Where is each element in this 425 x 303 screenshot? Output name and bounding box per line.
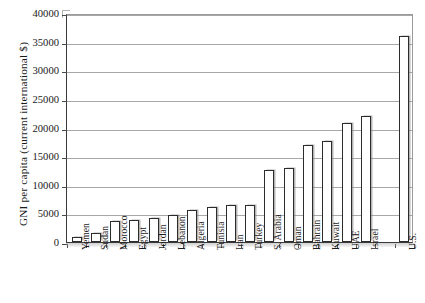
- y-axis-tick-label: 25000: [33, 94, 59, 105]
- x-axis-tick-label: Egypt: [137, 227, 148, 250]
- x-axis-tick-label: Tunisia: [215, 222, 226, 250]
- x-axis-tick-label: Algeria: [195, 221, 206, 250]
- x-axis-tick-label: Yemen: [80, 223, 91, 250]
- y-axis-tick-label: 40000: [33, 8, 59, 19]
- y-axis-title: GNI per capita (current international $): [17, 19, 29, 249]
- y-axis-tick-label: 0: [54, 237, 59, 248]
- x-axis-tick-label: Israel: [369, 229, 380, 250]
- y-axis-tick-label: 15000: [33, 151, 59, 162]
- x-axis-tick-label: Bahrain: [311, 220, 322, 250]
- bar: [342, 123, 352, 242]
- x-axis-tick-label: Jordan: [157, 224, 168, 250]
- x-axis-tick-label: U.S.: [407, 233, 418, 250]
- x-axis-tick-label: Oman: [292, 227, 303, 250]
- bar-chart: GNI per capita (current international $)…: [0, 0, 425, 303]
- x-axis-tick-label: Sudan: [99, 226, 110, 250]
- gridline: [67, 44, 412, 45]
- y-axis-tick: [62, 215, 67, 216]
- x-axis-tick-label: Kuwait: [330, 222, 341, 250]
- x-axis-tick-label: Turkey: [253, 223, 264, 250]
- x-axis-tick-label: S. Arabia: [272, 214, 283, 250]
- y-axis-tick: [62, 15, 67, 16]
- plot-area: [66, 14, 413, 243]
- y-axis-tick: [62, 187, 67, 188]
- y-axis-tick: [62, 130, 67, 131]
- gridline: [67, 15, 412, 16]
- bar: [399, 36, 409, 242]
- x-axis-tick-label: Lebanon: [176, 216, 187, 250]
- y-axis-tick-label: 35000: [33, 37, 59, 48]
- y-axis-tick: [62, 158, 67, 159]
- y-axis-tick: [62, 72, 67, 73]
- y-axis-tick-label: 5000: [38, 208, 59, 219]
- x-axis-tick-label: UAE: [350, 230, 361, 250]
- y-axis-tick-label: 10000: [33, 180, 59, 191]
- bar: [361, 116, 371, 242]
- gridline: [67, 101, 412, 102]
- gridline: [67, 72, 412, 73]
- x-axis-tick-label: Morocco: [118, 215, 129, 250]
- y-axis-tick-label: 30000: [33, 65, 59, 76]
- x-axis-tick-label: Iran: [234, 235, 245, 250]
- y-axis-tick: [62, 44, 67, 45]
- y-axis-tick: [62, 101, 67, 102]
- y-axis-tick-label: 20000: [33, 123, 59, 134]
